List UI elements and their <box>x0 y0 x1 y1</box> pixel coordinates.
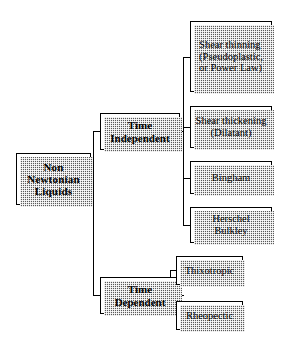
node-label: Bingham <box>209 172 254 184</box>
connector-root-trunk <box>93 131 94 296</box>
node-non-newtonian-liquids[interactable]: Non Newtonian Liquids <box>16 153 91 205</box>
node-time-independent[interactable]: Time Independent <box>100 113 180 150</box>
node-shear-thickening[interactable]: Shear thickening (Dilatant) <box>190 106 272 148</box>
node-label: Time Dependent <box>112 283 169 308</box>
node-label: Thixotropic <box>182 265 238 277</box>
node-bingham[interactable]: Bingham <box>190 161 272 194</box>
node-shear-thinning[interactable]: Shear thinning (Pseudoplastic, or Power … <box>190 21 272 92</box>
node-time-dependent[interactable]: Time Dependent <box>100 277 180 314</box>
node-label: Shear thickening (Dilatant) <box>193 115 270 139</box>
node-label: Shear thinning (Pseudoplastic, or Power … <box>196 39 266 74</box>
node-label: Rheopectic <box>183 310 236 322</box>
node-herschel-bulkley[interactable]: Herschel Bulkley <box>190 207 272 243</box>
node-rheopectic[interactable]: Rheopectic <box>176 301 243 330</box>
diagram-canvas: Non Newtonian Liquids Time Independent T… <box>0 0 287 349</box>
node-label: Non Newtonian Liquids <box>24 161 83 198</box>
node-label: Time Independent <box>107 119 172 144</box>
node-thixotropic[interactable]: Thixotropic <box>176 256 243 285</box>
connector-independent-trunk <box>183 57 184 226</box>
node-label: Herschel Bulkley <box>209 213 252 237</box>
